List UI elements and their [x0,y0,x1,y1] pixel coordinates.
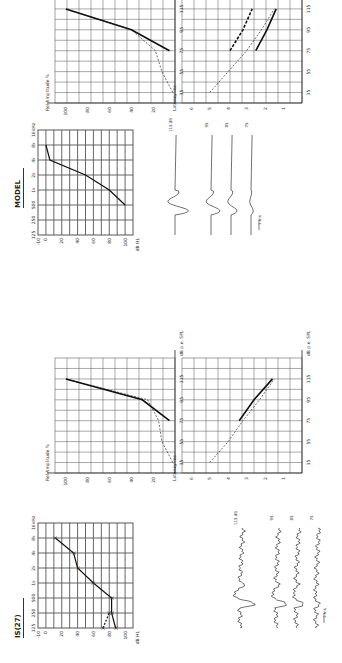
y-axis-label: Latency ms [172,84,177,111]
abr-waveform [228,135,237,235]
y-tick: 4 [226,477,231,480]
level-tick: 95 [306,397,311,403]
freq-tick: 250 [31,609,36,618]
freq-tick: 16kHz [31,515,36,530]
x-marker-icon: × [105,610,112,615]
level-tick: 55 [306,439,311,445]
y-tick: 3 [244,107,249,110]
freq-tick: 1k [31,580,36,586]
level-tick: 40 [75,238,80,244]
freq-tick: 8k [31,535,36,541]
level-tick: 0 [43,238,48,241]
y-tick: 3 [244,477,249,480]
freq-tick: 500 [31,594,36,603]
figure: IS(27) MODEL 1252505001k2k4k8k16kHz-1002… [0,0,342,663]
y-tick: 1 [281,477,286,480]
waveform-label: 115 dB [168,118,173,132]
y-tick: 1 [281,107,286,110]
level-tick: 80 [107,631,112,637]
level-tick: 115 [306,374,311,383]
level-tick: 100 [123,631,128,640]
abr-waveform [168,135,189,235]
level-tick: 80 [107,238,112,244]
level-tick: -10 [36,631,41,638]
level-tick: 60 [91,238,96,244]
abr-waveform [313,528,320,628]
freq-tick: 1k [31,187,36,193]
waveform-label: 95 [204,122,209,128]
y-tick: 2 [263,477,268,480]
freq-tick: 4k [31,550,36,556]
x-marker-icon: × [99,625,106,630]
y-axis-label: Rel Amplitude % [45,443,50,481]
x-axis-label: dB p.e. SPL [179,330,184,356]
y-tick: 80 [85,107,90,113]
y-tick: 80 [85,477,90,483]
x-marker-icon: × [51,535,58,540]
waveform-label: 75 [309,515,314,521]
y-tick: 40 [129,107,134,113]
x-axis-label: dB p.e. SPL [306,330,311,356]
y-tick: 2 [263,107,268,110]
model-amplitude-grid [55,0,175,103]
waveform-label: 85 [289,515,294,521]
level-tick: 95 [306,27,311,33]
y-tick: 6 [189,107,194,110]
unit-label: dB HL [135,238,140,252]
abr-waveform [250,135,253,235]
y-tick: 100 [63,107,68,116]
x-marker-icon: × [112,625,119,630]
y-axis-label: Rel Amplitude % [45,73,50,111]
charts-canvas: 1252505001k2k4k8k16kHz-10020406080100dB … [0,0,342,663]
y-tick: 4 [226,107,231,110]
freq-tick: 8k [31,142,36,148]
y-tick: 60 [107,477,112,483]
waveform-label: 75 [244,122,249,128]
level-tick: -10 [36,238,41,245]
y-tick: 5 [207,107,212,110]
freq-tick: 16kHz [31,122,36,137]
y-tick: 20 [151,107,156,113]
level-tick: 40 [75,631,80,637]
y-axis-label: Latency ms [172,454,177,481]
x-marker-icon: × [108,595,115,600]
level-tick: 0 [43,631,48,634]
waveform-label: 85 [224,122,229,128]
level-tick: 35 [306,90,311,96]
level-tick: 55 [306,69,311,75]
level-tick: 20 [59,238,64,244]
x-marker-icon: × [70,550,77,555]
freq-tick: 500 [31,201,36,210]
level-tick: 60 [91,631,96,637]
freq-tick: 2k [31,172,36,178]
freq-tick: 4k [31,157,36,163]
y-tick: 40 [129,477,134,483]
patient-amplitude-grid [55,358,175,473]
model-latency-grid [182,0,302,103]
freq-tick: 2k [31,565,36,571]
x-marker-icon: × [74,565,81,570]
y-tick: 20 [151,477,156,483]
unit-label: dB HL [135,631,140,645]
level-tick: 20 [59,631,64,637]
abr-waveform [206,135,220,235]
y-tick: 5 [207,477,212,480]
freq-tick: 250 [31,216,36,225]
y-tick: 60 [107,107,112,113]
abr-waveform [233,528,255,628]
model-audiogram-grid [38,130,133,235]
waveform-label: 115 dB [233,511,238,525]
y-tick: 6 [189,477,194,480]
level-tick: 35 [306,460,311,466]
scale-bar-label: 1 ms [257,215,262,225]
abr-waveform [271,528,286,628]
level-tick: 75 [306,48,311,54]
level-tick: 115 [306,4,311,13]
level-tick: 100 [123,238,128,247]
level-tick: 75 [306,418,311,424]
abr-waveform [293,528,304,628]
waveform-label: 95 [269,515,274,521]
x-marker-icon: × [89,580,96,585]
scale-bar-label: 1 ms [322,608,327,618]
y-tick: 100 [63,477,68,486]
